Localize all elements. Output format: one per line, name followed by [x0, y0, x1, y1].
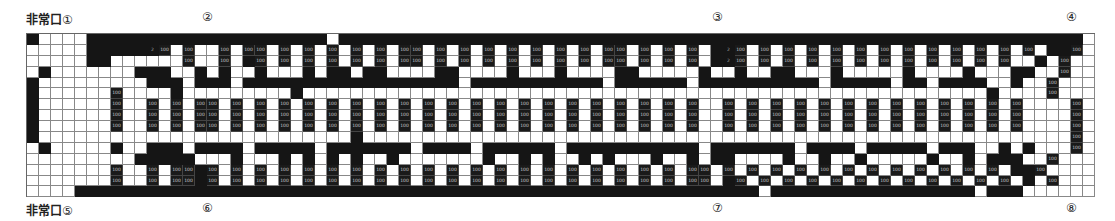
- floor-cell: [159, 99, 171, 110]
- wall-cell: [171, 34, 183, 45]
- floor-cell: [459, 88, 471, 99]
- floor-cell: [351, 67, 363, 78]
- floor-cell: [483, 110, 495, 121]
- floor-cell: [183, 143, 195, 154]
- floor-cell: [135, 165, 147, 176]
- floor-cell: [735, 99, 747, 110]
- wall-cell: [591, 34, 603, 45]
- booth-cell: 100: [879, 176, 891, 187]
- wall-cell: [747, 186, 759, 197]
- floor-cell: [975, 165, 987, 176]
- wall-cell: [783, 154, 795, 165]
- booth-cell: 100: [591, 121, 603, 132]
- floor-cell: [135, 78, 147, 89]
- floor-cell: [951, 88, 963, 99]
- floor-cell: [243, 132, 255, 143]
- floor-cell: [135, 56, 147, 67]
- wall-cell: [963, 154, 975, 165]
- booth-cell: 100: [939, 110, 951, 121]
- wall-cell: [435, 186, 447, 197]
- wall-cell: [615, 34, 627, 45]
- booth-cell: 100: [783, 176, 795, 187]
- exit-label-1: 非常口①: [26, 10, 73, 27]
- floor-cell: [795, 143, 807, 154]
- booth-cell: 100: [171, 121, 183, 132]
- booth-cell: 100: [231, 121, 243, 132]
- wall-cell: [459, 143, 471, 154]
- floor-cell: [723, 132, 735, 143]
- floor-cell: [195, 154, 207, 165]
- wall-cell: [1071, 34, 1083, 45]
- floor-cell: [627, 88, 639, 99]
- floor-cell: [915, 154, 927, 165]
- floor-cell: [831, 99, 843, 110]
- booth-cell: 100: [303, 176, 315, 187]
- floor-cell: [135, 132, 147, 143]
- floor-cell: [567, 56, 579, 67]
- floor-cell: [795, 154, 807, 165]
- wall-cell: [327, 143, 339, 154]
- booth-cell: 100: [807, 45, 819, 56]
- floor-cell: [1059, 176, 1071, 187]
- booth-cell: 100: [1047, 176, 1059, 187]
- floor-cell: [735, 121, 747, 132]
- wall-cell: [219, 78, 231, 89]
- wall-cell: [747, 34, 759, 45]
- booth-cell: 100: [771, 165, 783, 176]
- floor-cell: [687, 67, 699, 78]
- wall-cell: [363, 143, 375, 154]
- floor-cell: [1035, 132, 1047, 143]
- wall-cell: [447, 34, 459, 45]
- floor-cell: [711, 121, 723, 132]
- floor-cell: [879, 132, 891, 143]
- wall-cell: [651, 34, 663, 45]
- wall-cell: [699, 34, 711, 45]
- wall-cell: [843, 34, 855, 45]
- floor-cell: [135, 143, 147, 154]
- booth-cell: 100: [747, 121, 759, 132]
- booth-cell: 100: [891, 99, 903, 110]
- floor-cell: [819, 176, 831, 187]
- floor-cell: [555, 143, 567, 154]
- wall-cell: [159, 34, 171, 45]
- floor-cell: [435, 110, 447, 121]
- floor-cell: [267, 99, 279, 110]
- floor-cell: [411, 110, 423, 121]
- wall-cell: [387, 143, 399, 154]
- wall-cell: [807, 78, 819, 89]
- wall-cell: [879, 186, 891, 197]
- wall-cell: [363, 67, 375, 78]
- wall-cell: [711, 143, 723, 154]
- floor-cell: [507, 165, 519, 176]
- floor-cell: [315, 45, 327, 56]
- floor-cell: [579, 88, 591, 99]
- wall-cell: [351, 78, 363, 89]
- wall-cell: [99, 34, 111, 45]
- booth-cell: 100: [927, 45, 939, 56]
- floor-cell: [459, 110, 471, 121]
- booth-cell: 100: [987, 165, 999, 176]
- floor-cell: [927, 165, 939, 176]
- wall-cell: [939, 143, 951, 154]
- wall-cell: [483, 143, 495, 154]
- wall-cell: [435, 34, 447, 45]
- booth-cell: 100: [1011, 99, 1023, 110]
- booth-cell: 100: [771, 99, 783, 110]
- wall-cell: [99, 56, 111, 67]
- wall-cell: [579, 78, 591, 89]
- floor-cell: [1023, 121, 1035, 132]
- floor-cell: [75, 165, 87, 176]
- booth-cell: 100: [303, 99, 315, 110]
- floor-cell: [567, 45, 579, 56]
- floor-cell: [819, 78, 831, 89]
- floor-cell: [483, 67, 495, 78]
- wall-cell: [519, 34, 531, 45]
- booth-cell: 100: [867, 99, 879, 110]
- floor-cell: [423, 67, 435, 78]
- wall-cell: [303, 143, 315, 154]
- floor-cell: [903, 121, 915, 132]
- floor-cell: [75, 67, 87, 78]
- floor-cell: [27, 143, 39, 154]
- booth-cell: 100: [543, 121, 555, 132]
- floor-cell: [435, 154, 447, 165]
